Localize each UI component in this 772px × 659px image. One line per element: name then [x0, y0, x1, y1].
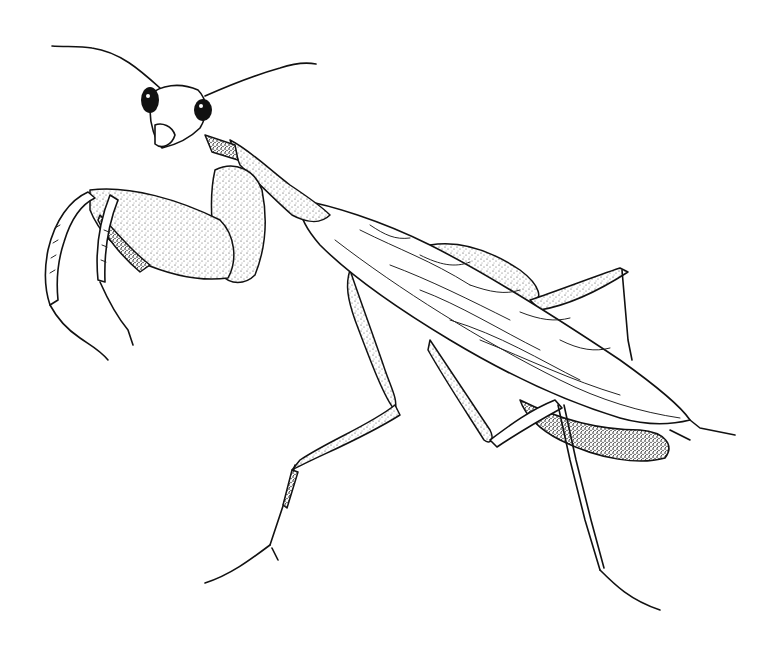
mantis-illustration	[0, 0, 772, 659]
far-middle-leg	[205, 270, 400, 583]
right-compound-eye	[194, 99, 212, 121]
raptorial-forelegs	[46, 166, 266, 360]
head	[141, 85, 212, 148]
illustration-canvas	[0, 0, 772, 659]
left-compound-eye	[141, 87, 159, 113]
